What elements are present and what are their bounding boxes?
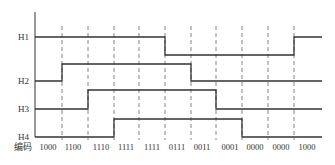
time-gridlines [62, 26, 294, 140]
code-value: 1111 [118, 142, 134, 152]
code-value: 0001 [222, 142, 239, 152]
waveform-h2 [35, 64, 322, 81]
signal-label-h3: H3 [18, 104, 29, 114]
signal-label-h4: H4 [18, 132, 29, 142]
timing-diagram: H1 H2 H3 H4 编码 1000 1100 1110 1111 1111 … [0, 0, 335, 165]
code-value: 1111 [144, 142, 160, 152]
code-value: 0011 [194, 142, 211, 152]
waveform-canvas [0, 0, 335, 165]
signal-label-h2: H2 [18, 76, 29, 86]
code-row-label: 编码 [14, 142, 32, 152]
code-value: 1000 [40, 142, 57, 152]
waveform-h3 [35, 90, 322, 109]
waveform-h1 [35, 37, 322, 55]
code-value: 0111 [169, 142, 185, 152]
code-value: 0000 [247, 142, 264, 152]
code-value: 1110 [93, 142, 109, 152]
code-value: 0000 [273, 142, 290, 152]
waveform-h4 [35, 119, 322, 137]
signal-label-h1: H1 [18, 32, 29, 42]
code-value: 1000 [299, 142, 316, 152]
code-value: 1100 [65, 142, 82, 152]
